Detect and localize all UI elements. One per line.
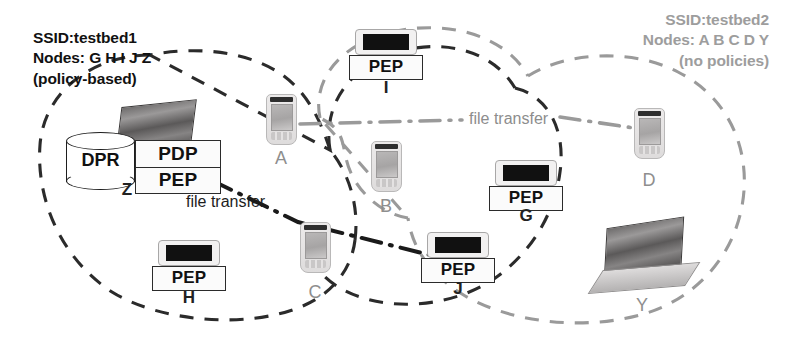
network-diagram: SSID:testbed1 Nodes: G H I J Z (policy-b… (0, 0, 787, 362)
node-i[interactable]: PEP (349, 29, 423, 80)
node-a[interactable] (266, 94, 297, 145)
node-z-policy-stack[interactable]: PDP PEP (135, 140, 221, 194)
node-a-device[interactable] (266, 94, 297, 145)
node-h-device[interactable] (158, 240, 220, 266)
device-keys (639, 146, 660, 154)
node-label-g: G (511, 206, 541, 226)
device-screen (503, 165, 549, 181)
cylinder-top (66, 132, 135, 150)
device-screen (435, 237, 481, 253)
device-keys (271, 132, 292, 140)
node-label-b: B (371, 196, 401, 217)
node-i-device[interactable] (355, 29, 417, 55)
flow-label-bottom: file transfer (186, 193, 265, 211)
node-c[interactable] (300, 222, 331, 273)
flow-line-a-to-d (300, 117, 634, 128)
node-label-y: Y (627, 295, 657, 316)
device-screen (639, 118, 661, 145)
device-strip (375, 144, 398, 149)
device-strip (304, 225, 327, 230)
node-z-pep-box[interactable]: PEP (135, 168, 221, 194)
device-screen (166, 245, 212, 261)
device-keys (376, 179, 397, 187)
device-screen (271, 104, 293, 131)
network-label-testbed2: SSID:testbed2 Nodes: A B C D Y (no polic… (643, 10, 769, 71)
device-screen (305, 232, 327, 259)
node-j[interactable]: PEP (421, 232, 495, 283)
node-label-j: J (443, 279, 473, 299)
node-d[interactable] (634, 108, 665, 159)
node-y-laptop[interactable] (598, 222, 690, 294)
device-keys (305, 260, 326, 268)
flow-label-top: file transfer (469, 110, 548, 128)
device-strip (270, 97, 293, 102)
node-b[interactable] (371, 141, 402, 192)
node-label-d: D (634, 170, 664, 191)
node-i-pep-box[interactable]: PEP (349, 55, 423, 80)
node-b-device[interactable] (371, 141, 402, 192)
node-c-device[interactable] (300, 222, 331, 273)
node-j-device[interactable] (427, 232, 489, 258)
dpr-label: DPR (66, 150, 135, 171)
device-screen (376, 151, 398, 178)
node-g-device[interactable] (495, 160, 557, 186)
device-strip (638, 111, 661, 116)
device-screen (363, 34, 409, 50)
node-label-z: Z (112, 180, 142, 200)
node-label-i: I (371, 78, 401, 98)
network-label-testbed1: SSID:testbed1 Nodes: G H I J Z (policy-b… (33, 28, 151, 89)
node-label-h: H (174, 288, 204, 308)
pdp-box[interactable]: PDP (135, 140, 221, 168)
node-label-a: A (266, 148, 296, 169)
node-g[interactable]: PEP (489, 160, 563, 211)
node-d-device[interactable] (634, 108, 665, 159)
node-label-c: C (300, 282, 330, 303)
node-h[interactable]: PEP (152, 240, 226, 291)
